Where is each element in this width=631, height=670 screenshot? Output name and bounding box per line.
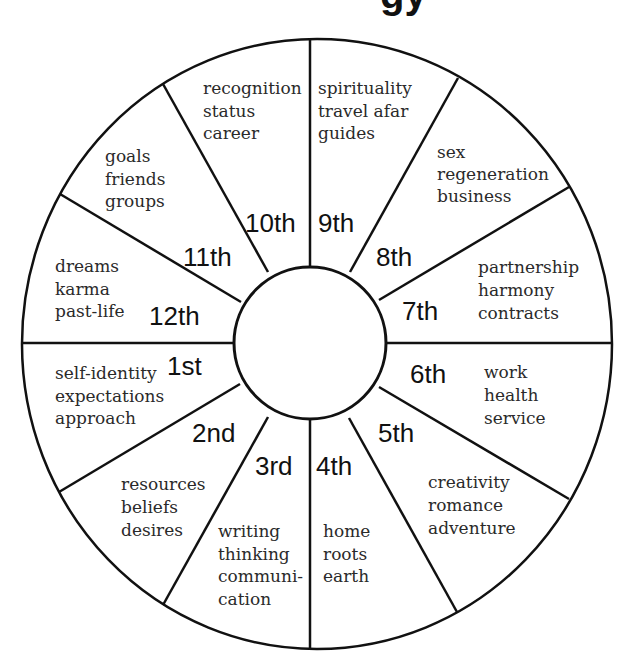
svg-text:thinking: thinking (218, 544, 290, 564)
svg-text:health: health (484, 385, 538, 405)
astrology-house-wheel: gy 1st 2nd 3rd 4th 5th 6th 7th 8th 9th 1… (0, 0, 631, 670)
house-number-7: 7th (402, 296, 438, 326)
svg-text:recognition: recognition (203, 78, 302, 98)
svg-text:status: status (203, 101, 255, 121)
svg-text:adventure: adventure (428, 518, 516, 538)
svg-text:spirituality: spirituality (318, 78, 412, 98)
house-number-4: 4th (316, 451, 352, 481)
svg-text:business: business (437, 186, 511, 206)
svg-text:contracts: contracts (478, 303, 559, 323)
svg-text:career: career (203, 123, 260, 143)
svg-text:travel afar: travel afar (318, 101, 409, 121)
house-number-3: 3rd (255, 451, 293, 481)
svg-text:expectations: expectations (55, 386, 164, 406)
svg-text:communi-: communi- (218, 566, 303, 586)
svg-text:dreams: dreams (55, 256, 119, 276)
svg-text:groups: groups (105, 191, 165, 211)
svg-text:service: service (484, 408, 546, 428)
title-fragment: gy (380, 0, 427, 16)
svg-text:past-life: past-life (55, 301, 125, 321)
svg-text:romance: romance (428, 495, 503, 515)
svg-text:beliefs: beliefs (121, 497, 178, 517)
svg-text:regeneration: regeneration (437, 164, 549, 184)
svg-text:harmony: harmony (478, 280, 555, 300)
svg-text:sex: sex (437, 142, 466, 162)
house-number-11: 11th (183, 242, 232, 272)
svg-text:desires: desires (121, 520, 183, 540)
svg-text:creativity: creativity (428, 472, 510, 492)
svg-text:roots: roots (323, 544, 367, 564)
svg-text:writing: writing (218, 521, 280, 541)
svg-text:guides: guides (318, 123, 375, 143)
house-number-2: 2nd (192, 418, 235, 448)
house-number-9: 9th (318, 208, 354, 238)
svg-text:work: work (484, 362, 528, 382)
house-5-keywords: creativity romance adventure (428, 472, 516, 538)
inner-circle (234, 267, 386, 419)
svg-text:cation: cation (218, 589, 271, 609)
house-number-10: 10th (245, 208, 296, 238)
svg-text:karma: karma (55, 279, 110, 299)
house-number-1: 1st (167, 351, 202, 381)
svg-text:self-identity: self-identity (55, 363, 157, 383)
house-number-5: 5th (378, 418, 414, 448)
house-number-12: 12th (149, 301, 200, 331)
svg-text:approach: approach (55, 408, 136, 428)
svg-text:partnership: partnership (478, 257, 579, 277)
svg-text:friends: friends (105, 169, 165, 189)
svg-text:earth: earth (323, 566, 369, 586)
svg-text:goals: goals (105, 146, 150, 166)
house-number-6: 6th (410, 359, 446, 389)
svg-text:home: home (323, 521, 370, 541)
house-number-8: 8th (376, 242, 412, 272)
svg-text:resources: resources (121, 474, 206, 494)
house-4-keywords: home roots earth (323, 521, 370, 586)
